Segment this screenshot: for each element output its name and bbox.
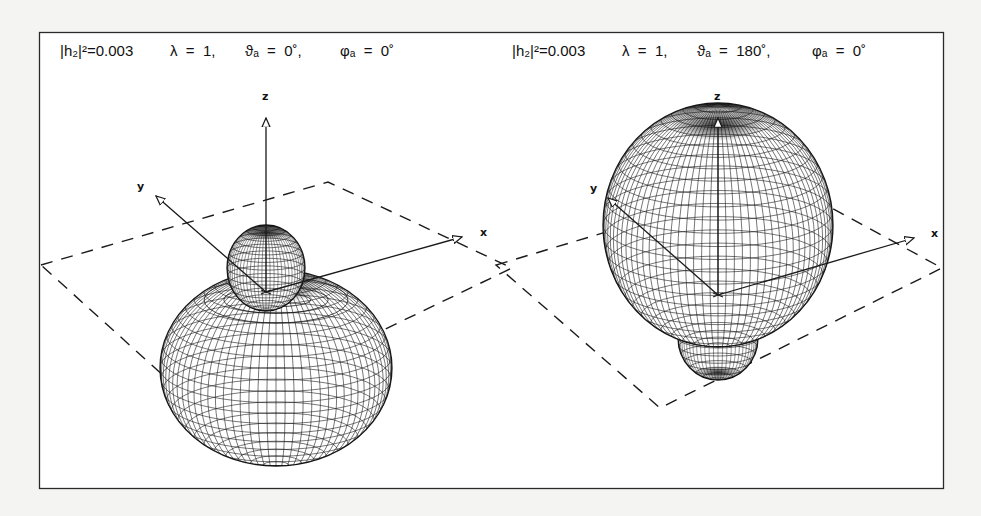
panel-left-caption-amplitude: |h₂|²=0.003 [60, 42, 133, 59]
panel-left-z-label: z [262, 90, 268, 103]
panel-left-y-label: y [137, 180, 144, 193]
figure: |h₂|²=0.003 λ = 1, ϑₐ = 0˚, φₐ = 0˚ z y … [0, 0, 981, 516]
panel-left-caption-theta: ϑₐ = 0˚, [245, 42, 302, 59]
panel-right-y-label: y [590, 182, 597, 195]
panel-right-x-label: x [931, 227, 938, 240]
panel-right-caption-lambda: λ = 1, [622, 42, 667, 59]
panel-left-caption-lambda: λ = 1, [170, 42, 215, 59]
panel-left-caption-phi: φₐ = 0˚ [340, 42, 394, 59]
panel-right-z-label: z [714, 90, 720, 103]
panel-right-caption-theta: ϑₐ = 180˚, [697, 42, 770, 59]
panel-left-x-label: x [480, 226, 487, 239]
panel-right-caption-amplitude: |h₂|²=0.003 [512, 42, 585, 59]
panel-right-caption-phi: φₐ = 0˚ [812, 42, 866, 59]
